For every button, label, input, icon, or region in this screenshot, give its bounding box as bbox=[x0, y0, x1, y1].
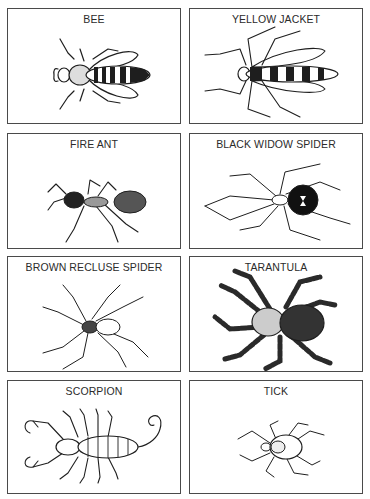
bee-icon bbox=[8, 9, 182, 125]
scorpion-icon bbox=[8, 381, 182, 495]
card-tarantula: TARANTULA bbox=[189, 256, 363, 372]
card-yellow-jacket: YELLOW JACKET bbox=[189, 8, 363, 124]
card-black-widow-spider: BLACK WIDOW SPIDER bbox=[189, 133, 363, 249]
card-brown-recluse-spider: BROWN RECLUSE SPIDER bbox=[7, 256, 181, 372]
tick-icon bbox=[190, 381, 364, 495]
black-widow-spider-icon bbox=[190, 134, 364, 250]
card-bee: BEE bbox=[7, 8, 181, 124]
card-tick: TICK bbox=[189, 380, 363, 494]
yellow-jacket-icon bbox=[190, 9, 364, 125]
brown-recluse-spider-icon bbox=[8, 257, 182, 373]
card-scorpion: SCORPION bbox=[7, 380, 181, 494]
fire-ant-icon bbox=[8, 134, 182, 250]
card-fire-ant: FIRE ANT bbox=[7, 133, 181, 249]
tarantula-icon bbox=[190, 257, 364, 373]
